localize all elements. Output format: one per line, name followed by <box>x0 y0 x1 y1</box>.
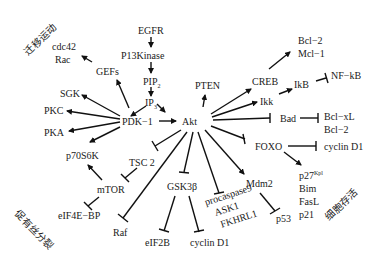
node-p27-sup: Kpl <box>314 170 323 176</box>
node-creb: CREB <box>252 76 278 87</box>
node-bad: Bad <box>280 113 296 124</box>
node-eif4ebp: eIF4E−BP <box>58 210 100 221</box>
node-cdc42-rac: cdc42 Rac <box>52 40 76 66</box>
node-bcl2-a: Bcl−2 <box>298 34 325 47</box>
node-p53: p53 <box>276 213 291 224</box>
node-p70s6k: p70S6K <box>66 150 99 161</box>
node-gsk3b: GSK3β <box>167 181 197 192</box>
node-foxo: FOXO <box>255 141 282 152</box>
node-cyclin-d1-foxo: cyclin D1 <box>324 141 363 152</box>
node-cyclin-d1-gsk: cyclin D1 <box>190 237 229 248</box>
node-pkc: PKC <box>44 105 63 116</box>
node-pip2-label: PIP <box>143 76 157 87</box>
node-p27-label: p27 <box>299 170 314 181</box>
node-ikk: Ikk <box>260 96 273 107</box>
node-eif2b: eIF2B <box>145 237 170 248</box>
node-ip3-label: IP <box>145 97 154 108</box>
node-sgk: SGK <box>60 88 80 99</box>
node-bcl2-b: Bcl−2 <box>324 123 355 136</box>
node-p21: p21 <box>299 208 323 221</box>
node-pi3kinase: P13Kinase <box>121 50 164 61</box>
node-p27-group: p27Kpl Bim FasL p21 <box>299 167 323 221</box>
node-gefs: GEFs <box>96 66 119 77</box>
node-p27: p27Kpl <box>299 167 323 182</box>
node-egfr: EGFR <box>138 25 164 36</box>
node-raf: Raf <box>113 227 127 238</box>
node-bcl2-mcl1: Bcl−2 Mcl−1 <box>298 34 325 60</box>
node-rac: Rac <box>52 53 76 66</box>
node-ip3-sub: 3 <box>154 104 157 110</box>
node-pka: PKA <box>44 127 64 138</box>
node-fasl: FasL <box>299 195 323 208</box>
node-pten: PTEN <box>195 80 220 91</box>
node-pip2-sub: 2 <box>157 83 160 89</box>
node-mdm2: Mdm2 <box>246 178 273 189</box>
node-tsc2: TSC 2 <box>129 157 155 168</box>
akt-signaling-diagram: 迁移运动 促有丝分裂 细胞存活 EGFR P13Kinase PIP2 IP3 … <box>0 0 382 267</box>
node-bclxl: Bcl−xL <box>324 110 355 123</box>
node-akt: Akt <box>182 116 197 127</box>
node-pip2: PIP2 <box>143 76 160 92</box>
node-pdk1: PDK−1 <box>122 116 153 127</box>
node-nfkb: NF−kB <box>331 70 361 81</box>
node-mtor: mTOR <box>97 184 125 195</box>
node-cdc42: cdc42 <box>52 40 76 53</box>
node-bclxl-bcl2: Bcl−xL Bcl−2 <box>324 110 355 136</box>
node-mcl1: Mcl−1 <box>298 47 325 60</box>
node-bim: Bim <box>299 182 323 195</box>
node-ikb: IkB <box>294 79 309 90</box>
node-ip3: IP3 <box>145 97 157 113</box>
